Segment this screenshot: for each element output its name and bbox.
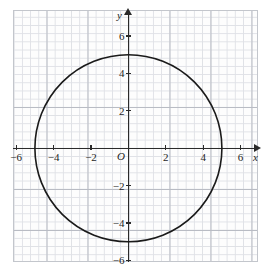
y-tick-label--2: −2 [104,180,124,191]
x-tick-2 [165,145,166,150]
x-tick-label--6: −6 [10,152,22,163]
y-tick--6 [126,260,131,261]
y-axis-label: y [117,9,122,21]
y-tick-label-2: 2 [104,105,124,116]
y-tick-label-4: 4 [104,68,124,79]
cropped-header-text [4,0,64,4]
x-tick-label-4: 4 [200,152,206,163]
x-tick-label--4: −4 [48,152,60,163]
x-tick--2 [90,145,91,150]
x-tick--6 [16,145,17,150]
y-tick-4 [126,73,131,74]
y-tick--4 [126,222,131,223]
x-tick-label-6: 6 [238,152,244,163]
x-tick-6 [240,145,241,150]
x-tick--4 [53,145,54,150]
y-tick-label-6: 6 [104,31,124,42]
x-axis-label: x [253,151,258,163]
x-tick-4 [203,145,204,150]
y-axis-line [128,14,129,262]
graph-screenshot: x y O −6−4−2246642−2−4−6 [0,0,267,273]
origin-label: O [117,150,125,162]
x-tick-label--2: −2 [85,152,97,163]
graph-paper-grid [13,10,258,262]
y-tick--2 [126,185,131,186]
x-axis-line [13,148,256,149]
y-tick-2 [126,110,131,111]
y-tick-label--4: −4 [104,218,124,229]
y-tick-6 [126,35,131,36]
y-tick-label--6: −6 [104,255,124,266]
y-axis-arrow-icon [124,8,132,15]
x-tick-label-2: 2 [163,152,169,163]
